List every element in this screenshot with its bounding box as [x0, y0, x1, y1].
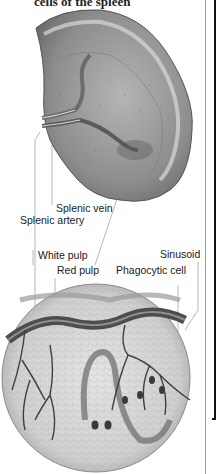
- label-splenic-vein: Splenic vein: [56, 203, 113, 214]
- label-phagocytic-cell: Phagocytic cell: [116, 265, 186, 276]
- magnified-tissue-circle: [2, 284, 190, 472]
- label-red-pulp: Red pulp: [57, 265, 99, 276]
- page-border-black: [214, 0, 216, 420]
- page-border-gray: [205, 0, 206, 474]
- spleen-organ: [36, 10, 192, 201]
- page-border-corner: [212, 418, 216, 420]
- spleen-illustration: [0, 0, 216, 474]
- label-splenic-artery: Splenic artery: [20, 215, 84, 226]
- label-sinusoid: Sinusoid: [160, 249, 200, 260]
- label-white-pulp: White pulp: [38, 250, 88, 261]
